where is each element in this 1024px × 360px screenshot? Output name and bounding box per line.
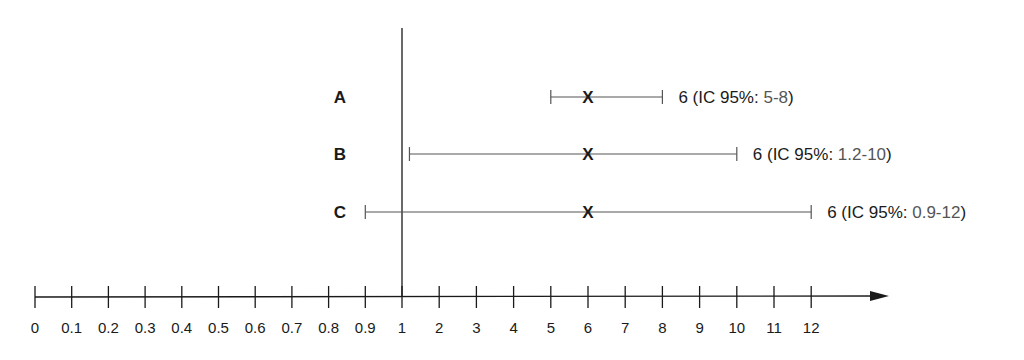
x-tick-label: 0.3	[135, 319, 156, 336]
x-tick-label: 7	[621, 319, 629, 336]
x-tick-label: 8	[658, 319, 666, 336]
axis-arrow-icon	[870, 291, 889, 301]
study-row-a: AX6 (IC 95%: 5-8)	[334, 88, 794, 107]
x-tick-label: 10	[728, 319, 745, 336]
forest-plot: 00.10.20.30.40.50.60.70.80.9123456789101…	[0, 0, 1024, 360]
estimate-marker-icon: X	[582, 88, 594, 107]
x-tick-label: 0.4	[171, 319, 192, 336]
x-tick-label: 1	[398, 319, 406, 336]
x-tick-label: 0.8	[318, 319, 339, 336]
x-tick-label: 12	[803, 319, 820, 336]
study-row-c: CX6 (IC 95%: 0.9-12)	[334, 203, 966, 222]
x-tick-label: 0.6	[245, 319, 266, 336]
estimate-annotation: 6 (IC 95%: 1.2-10)	[753, 145, 892, 164]
x-tick-label: 0.1	[61, 319, 82, 336]
x-axis-line	[35, 296, 880, 297]
study-label: B	[334, 145, 346, 164]
x-tick-label: 0	[31, 319, 39, 336]
x-tick-label: 9	[695, 319, 703, 336]
x-tick-label: 4	[509, 319, 517, 336]
estimate-marker-icon: X	[582, 145, 594, 164]
x-tick-label: 6	[584, 319, 592, 336]
x-tick-label: 0.9	[355, 319, 376, 336]
study-label: A	[334, 88, 346, 107]
x-tick-label: 2	[435, 319, 443, 336]
estimate-annotation: 6 (IC 95%: 5-8)	[678, 88, 793, 107]
forest-plot-canvas: 00.10.20.30.40.50.60.70.80.9123456789101…	[0, 0, 1024, 360]
estimate-marker-icon: X	[582, 203, 594, 222]
x-tick-label: 5	[547, 319, 555, 336]
study-label: C	[334, 203, 346, 222]
x-tick-label: 0.5	[208, 319, 229, 336]
x-axis: 00.10.20.30.40.50.60.70.80.9123456789101…	[31, 286, 889, 336]
estimate-annotation: 6 (IC 95%: 0.9-12)	[827, 203, 966, 222]
x-tick-label: 0.2	[98, 319, 119, 336]
x-tick-label: 0.7	[281, 319, 302, 336]
study-row-b: BX6 (IC 95%: 1.2-10)	[334, 145, 892, 164]
x-tick-label: 11	[766, 319, 782, 336]
x-tick-label: 3	[472, 319, 480, 336]
